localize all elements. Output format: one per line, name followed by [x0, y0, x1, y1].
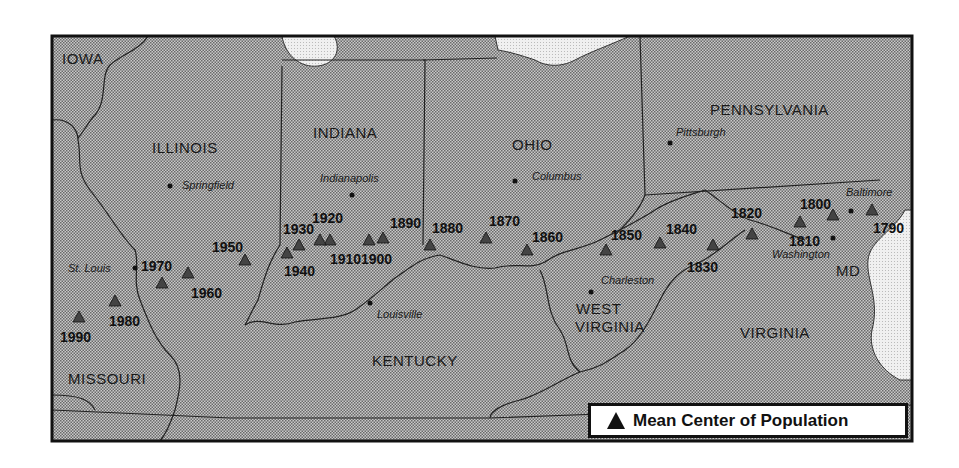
year-label: 1870 — [489, 213, 520, 229]
year-label: 1850 — [611, 227, 642, 243]
city-label: Baltimore — [846, 186, 892, 198]
city-dot-icon — [513, 179, 518, 184]
population-center-map: IOWAILLINOISINDIANAOHIOPENNSYLVANIAWESTV… — [0, 0, 959, 468]
city-dot-icon — [668, 141, 673, 146]
year-label: 1970 — [141, 258, 172, 274]
year-label: 1890 — [390, 215, 421, 231]
city-dot-icon — [350, 193, 355, 198]
city-dot-icon — [849, 209, 854, 214]
year-label: 1940 — [284, 263, 315, 279]
state-label: ILLINOIS — [152, 139, 218, 156]
state-label: VIRGINIA — [575, 318, 645, 335]
city-dot-icon — [589, 290, 594, 295]
year-label: 1930 — [283, 221, 314, 237]
year-label: 1800 — [800, 196, 831, 212]
state-label: WEST — [576, 300, 621, 317]
city-label: Pittsburgh — [676, 126, 726, 138]
state-label: INDIANA — [313, 124, 377, 141]
year-label: 1960 — [191, 285, 222, 301]
city-dot-icon — [133, 266, 138, 271]
year-label: 1980 — [109, 313, 140, 329]
year-label: 1950 — [212, 239, 243, 255]
year-label: 1810 — [789, 233, 820, 249]
city-label: Charleston — [601, 274, 654, 286]
city-label: Washington — [772, 248, 830, 260]
triangle-icon — [607, 412, 625, 429]
year-label: 1920 — [312, 210, 343, 226]
city-dot-icon — [168, 184, 173, 189]
state-label: MISSOURI — [68, 370, 146, 387]
legend: Mean Center of Population — [588, 403, 908, 438]
legend-label: Mean Center of Population — [633, 411, 848, 431]
state-label: OHIO — [512, 136, 552, 153]
state-label: MD — [836, 262, 860, 279]
state-label: IOWA — [62, 50, 103, 67]
year-label: 1830 — [687, 259, 718, 275]
city-dot-icon — [368, 301, 373, 306]
year-label: 1840 — [666, 221, 697, 237]
city-label: Columbus — [532, 170, 582, 182]
city-label: Louisville — [377, 308, 422, 320]
year-label: 1880 — [432, 220, 463, 236]
year-label: 1860 — [532, 229, 563, 245]
city-label: Springfield — [182, 179, 235, 191]
year-label: 1790 — [873, 220, 904, 236]
city-label: Indianapolis — [320, 172, 379, 184]
year-label: 1900 — [361, 251, 392, 267]
state-label: KENTUCKY — [372, 352, 458, 369]
state-label: PENNSYLVANIA — [710, 101, 829, 118]
city-label: St. Louis — [68, 262, 111, 274]
year-label: 1990 — [60, 329, 91, 345]
city-dot-icon — [831, 236, 836, 241]
state-label: VIRGINIA — [740, 324, 810, 341]
year-label: 1910 — [330, 251, 361, 267]
year-label: 1820 — [731, 205, 762, 221]
